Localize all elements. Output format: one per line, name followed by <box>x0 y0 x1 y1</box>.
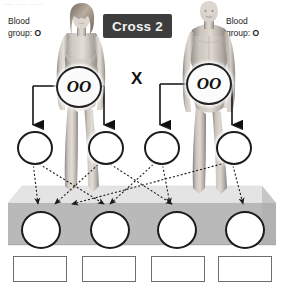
offspring-circle[interactable] <box>21 211 61 249</box>
gamete-circle[interactable] <box>17 131 53 165</box>
genotype-circle-male: OO <box>186 63 232 105</box>
genotype-circle-female: OO <box>56 66 102 108</box>
answer-box[interactable] <box>151 256 205 282</box>
gamete-circle[interactable] <box>216 131 252 165</box>
gamete-circle[interactable] <box>88 131 124 165</box>
gamete-circle[interactable] <box>144 131 180 165</box>
answer-box[interactable] <box>82 256 136 282</box>
genetics-cross-diagram: ..... ..... ...... <box>0 0 284 288</box>
offspring-circle[interactable] <box>225 211 265 249</box>
genotype-value-female: OO <box>67 77 92 97</box>
answer-box[interactable] <box>13 256 67 282</box>
genotype-value-male: OO <box>197 74 222 94</box>
offspring-circle[interactable] <box>157 211 197 249</box>
offspring-circle[interactable] <box>90 211 130 249</box>
answer-box[interactable] <box>218 256 272 282</box>
